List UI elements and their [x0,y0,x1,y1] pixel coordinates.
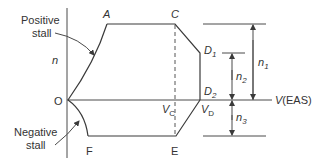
positive-stall-label-line2: stall [32,27,52,39]
negative-stall-label-line2: stall [26,139,46,151]
v-axis-label: V(EAS) [275,94,312,106]
origin-label: O [54,95,63,107]
vc-label: VC [162,103,175,118]
vd-label: VD [201,103,214,118]
n2-label: n2 [236,70,247,85]
n-axis-label: n [52,54,58,66]
point-c-label: C [171,8,179,20]
vn-diagram: A C D1 D2 E F O n VC VD V(EAS) n1 n2 n3 … [0,0,329,162]
positive-stall-pointer [55,33,94,55]
negative-stall-label-line1: Negative [14,126,57,138]
n1-label: n1 [258,56,269,71]
envelope-lower-boundary [88,100,200,136]
n3-label: n3 [236,111,247,126]
point-a-label: A [102,8,110,20]
point-f-label: F [86,145,93,157]
envelope-upper-boundary [107,24,200,100]
positive-stall-label-line1: Positive [21,14,60,26]
point-d1-label: D1 [204,44,216,59]
point-d2-label: D2 [204,85,217,100]
positive-stall-curve [68,24,107,100]
point-e-label: E [171,145,178,157]
